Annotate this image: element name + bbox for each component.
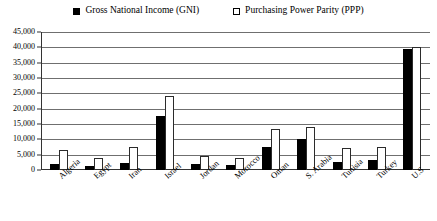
x-label-cell: Tunisia — [324, 172, 359, 221]
bar-gni — [368, 160, 377, 170]
legend-label-ppp: Purchasing Power Parity (PPP) — [245, 6, 364, 16]
bar-ppp — [412, 47, 421, 170]
bar-gni — [403, 49, 412, 170]
x-label-cell: U.S — [395, 172, 430, 221]
bar-chart: Gross National Income (GNI) Purchasing P… — [0, 0, 437, 221]
y-tick-label: 35,000 — [13, 59, 35, 67]
bar-gni — [191, 164, 200, 170]
bar-group — [41, 32, 76, 170]
bar-group — [289, 32, 324, 170]
bar-group — [112, 32, 147, 170]
bar-group — [218, 32, 253, 170]
x-label-cell: Israel — [147, 172, 182, 221]
x-label-cell: Turkey — [359, 172, 394, 221]
legend-entry-ppp: Purchasing Power Parity (PPP) — [233, 6, 364, 16]
legend-entry-gni: Gross National Income (GNI) — [73, 6, 199, 16]
y-axis: 45,00040,00035,00030,00025,00020,00015,0… — [0, 32, 41, 170]
x-axis-labels: AlgeriaEgyptIranIsraelJordanMoroccoOmanS… — [41, 172, 430, 221]
bar-gni — [262, 147, 271, 170]
y-tick-label: 5,000 — [17, 151, 35, 159]
y-tick-label: 0 — [31, 166, 35, 174]
bar-group — [324, 32, 359, 170]
y-tick-label: 30,000 — [13, 74, 35, 82]
bar-gni — [226, 165, 235, 170]
bar-group — [359, 32, 394, 170]
bar-group — [395, 32, 430, 170]
x-label-cell: Iran — [112, 172, 147, 221]
x-label-cell: Algeria — [41, 172, 76, 221]
y-tick-label: 10,000 — [13, 135, 35, 143]
bar-ppp — [165, 96, 174, 170]
legend-label-gni: Gross National Income (GNI) — [85, 6, 199, 16]
bar-group — [253, 32, 288, 170]
bar-gni — [50, 164, 59, 170]
y-tick-label: 25,000 — [13, 89, 35, 97]
bar-gni — [333, 162, 342, 170]
bars-layer — [41, 32, 430, 170]
y-tick-label: 15,000 — [13, 120, 35, 128]
bar-group — [76, 32, 111, 170]
bar-gni — [297, 139, 306, 170]
x-label-cell: Oman — [253, 172, 288, 221]
bar-gni — [85, 166, 94, 170]
y-tick-label: 40,000 — [13, 43, 35, 51]
bar-gni — [156, 116, 165, 170]
chart-legend: Gross National Income (GNI) Purchasing P… — [0, 2, 437, 20]
hollow-square-icon — [233, 8, 240, 15]
x-label-cell: Morocco — [218, 172, 253, 221]
y-tick-label: 20,000 — [13, 105, 35, 113]
filled-square-icon — [73, 8, 80, 15]
bar-group — [147, 32, 182, 170]
x-label-cell: Egypt — [76, 172, 111, 221]
bar-gni — [120, 163, 129, 170]
bar-group — [182, 32, 217, 170]
x-label-cell: S. Arabia — [289, 172, 324, 221]
x-label-cell: Jordan — [182, 172, 217, 221]
y-tick-label: 45,000 — [13, 28, 35, 36]
